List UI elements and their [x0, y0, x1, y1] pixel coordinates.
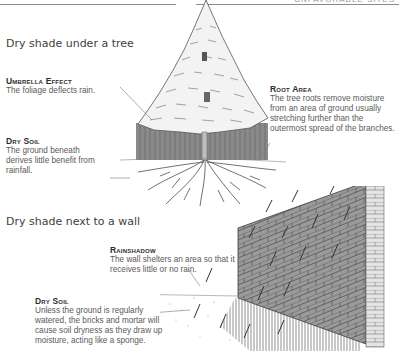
callout-umbrella-effect: Umbrella Effect The foliage deflects rai… [6, 76, 126, 96]
section-heading-wall: Dry shade next to a wall [6, 215, 140, 228]
page: Unfavorable Sites Dry shade under a tree… [0, 0, 399, 351]
running-head: Unfavorable Sites [294, 0, 395, 4]
callout-dry-soil-wall: Dry Soil Unless the ground is regularly … [35, 296, 170, 346]
callout-body: Unless the ground is regularly watered, … [35, 306, 170, 346]
callout-title: Umbrella Effect [6, 76, 126, 86]
callout-title: Dry Soil [35, 296, 170, 306]
callout-body: The ground beneath derives little benefi… [6, 146, 98, 176]
callout-body: The foliage deflects rain. [6, 86, 126, 96]
brick-wall-illustration [160, 186, 399, 351]
conifer-tree-illustration [110, 0, 290, 210]
callout-title: Dry Soil [6, 136, 98, 146]
callout-dry-soil-tree: Dry Soil The ground beneath derives litt… [6, 136, 98, 176]
